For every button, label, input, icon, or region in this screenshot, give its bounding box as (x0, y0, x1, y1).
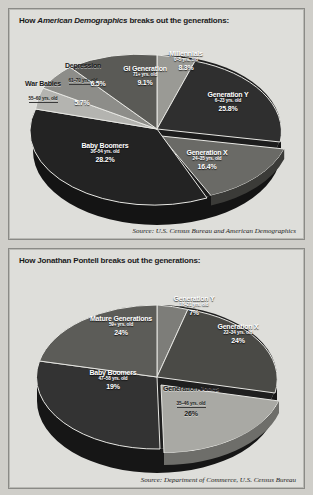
source-note-bottom: Source: Department of Commerce, U.S. Cen… (141, 476, 296, 484)
source-note-top: Source: U.S. Census Bureau and American … (133, 227, 296, 235)
scanned-page: How American Demographics breaks out the… (0, 0, 313, 495)
chart-panel-american-demographics: How American Demographics breaks out the… (8, 8, 305, 240)
pie-body-top (30, 54, 284, 225)
pie-body-bottom (36, 305, 279, 473)
pie-svg-top (9, 9, 306, 239)
chart-panel-jonathan-pontell: How Jonathan Pontell breaks out the gene… (8, 248, 305, 489)
pie-chart-american-demographics: Millennials 0–5 yrs. old 8.3% Generation… (9, 9, 304, 239)
pie-svg-bottom (9, 249, 306, 488)
pie-chart-jonathan-pontell: Generation Y 18–21 yrs. old 7% Generatio… (9, 249, 304, 488)
